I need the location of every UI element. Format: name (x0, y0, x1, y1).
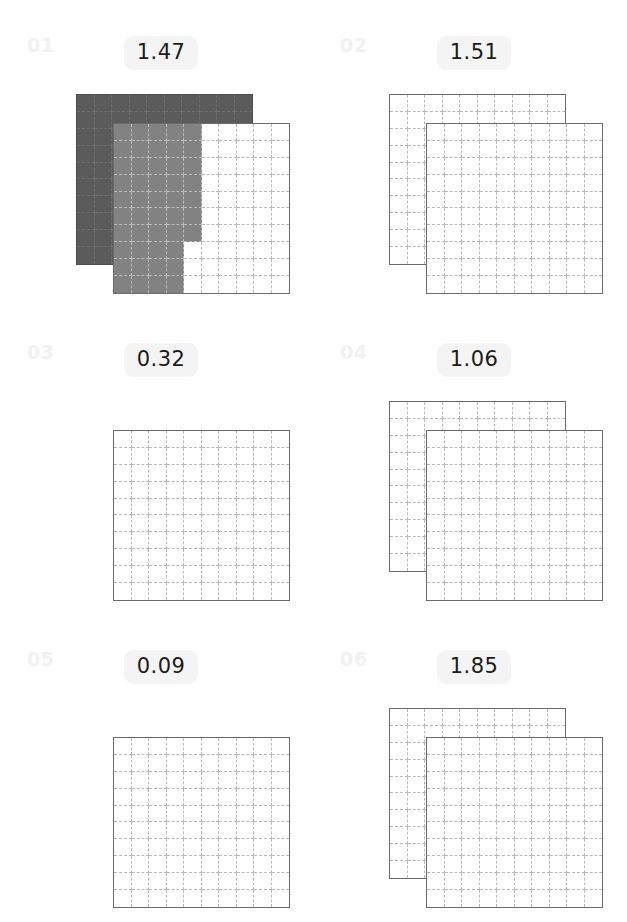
grid-cell (567, 755, 585, 772)
grid-stage (0, 385, 313, 610)
grid-cell (390, 129, 408, 146)
grid-cell (515, 566, 533, 583)
grid-cell (130, 95, 148, 112)
grid-cell (114, 465, 132, 482)
grid-cell (497, 141, 515, 158)
grid-cell (497, 806, 515, 823)
grid-cell (462, 175, 480, 192)
grid-cell (585, 806, 603, 823)
grid-cell (114, 566, 132, 583)
grid-cell (462, 532, 480, 549)
grid-cell (462, 772, 480, 789)
grid-cell (149, 839, 167, 856)
grid-cell (567, 566, 585, 583)
grid-cell (202, 806, 220, 823)
grid-cell (480, 465, 498, 482)
grid-cell (585, 259, 603, 276)
grid-cell (219, 499, 237, 516)
grid-cell (427, 448, 445, 465)
grid-cell (462, 276, 480, 293)
grid-cell (462, 158, 480, 175)
grid-cell (184, 242, 202, 259)
grid-cell (480, 276, 498, 293)
grid-cell (550, 141, 568, 158)
grid-cell (408, 470, 426, 487)
grid-cell (515, 431, 533, 448)
grid-cell (202, 259, 220, 276)
grid-cell (532, 738, 550, 755)
grid-cell (219, 276, 237, 293)
grid-cell (462, 873, 480, 890)
grid-cell (427, 431, 445, 448)
grid-cell (167, 532, 185, 549)
grid-cell (427, 158, 445, 175)
grid-cell (408, 861, 426, 878)
grid-cell (550, 549, 568, 566)
grid-cell (532, 549, 550, 566)
grid-cell (167, 806, 185, 823)
grid-cell (408, 196, 426, 213)
grid-cell (513, 95, 531, 112)
grid-cell (462, 141, 480, 158)
grid-cell (497, 856, 515, 873)
grid-cell (219, 890, 237, 907)
grid-cell (272, 549, 290, 566)
grid-cell (550, 465, 568, 482)
grid-cell (254, 124, 272, 141)
grid-cell (184, 175, 202, 192)
grid-cell (515, 259, 533, 276)
grid-cell (445, 789, 463, 806)
grid-cell (497, 259, 515, 276)
grid-cell (532, 482, 550, 499)
grid-cell (515, 158, 533, 175)
grid-cell (425, 95, 443, 112)
grid-cell (237, 515, 255, 532)
grid-cell (390, 436, 408, 453)
grid-cell (77, 95, 95, 112)
grid-cell (550, 499, 568, 516)
grid-cell (427, 856, 445, 873)
grid-cell (167, 448, 185, 465)
grid-cell (445, 242, 463, 259)
grid-cell (132, 465, 150, 482)
grid-cell (149, 124, 167, 141)
grid-cell (462, 225, 480, 242)
grid-cell (219, 175, 237, 192)
grid-cell (184, 583, 202, 600)
grid-cell (237, 789, 255, 806)
grid-cell (445, 158, 463, 175)
grid-cell (237, 175, 255, 192)
grid-cell (497, 839, 515, 856)
grid-cell (567, 431, 585, 448)
grid-cell (515, 839, 533, 856)
grid-cell (237, 549, 255, 566)
grid-cell (513, 709, 531, 726)
grid-cell (390, 503, 408, 520)
grid-cell (390, 419, 408, 436)
grid-cell (585, 532, 603, 549)
grid-cell (114, 158, 132, 175)
grid-cell (427, 515, 445, 532)
grid-cell (202, 124, 220, 141)
grid-cell (219, 465, 237, 482)
grid-cell (167, 772, 185, 789)
grid-cell (149, 499, 167, 516)
grid-cell (114, 789, 132, 806)
grid-cell (515, 856, 533, 873)
grid-cell (532, 822, 550, 839)
grid-cell (184, 890, 202, 907)
grid-cell (219, 789, 237, 806)
grid-cell (390, 402, 408, 419)
grid-cell (149, 141, 167, 158)
grid-cell (532, 856, 550, 873)
grid-cell (149, 276, 167, 293)
grid-cell (532, 873, 550, 890)
grid-cell (167, 839, 185, 856)
grid-cell (390, 537, 408, 554)
grid-cell (408, 793, 426, 810)
grid-cell (390, 179, 408, 196)
grid-cell (445, 566, 463, 583)
grid-cell (408, 95, 426, 112)
grid-cell (272, 789, 290, 806)
grid-cell (202, 755, 220, 772)
